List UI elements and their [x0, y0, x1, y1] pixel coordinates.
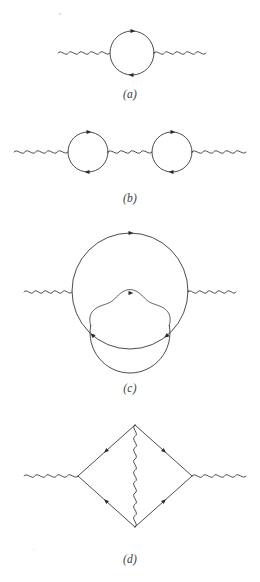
vertex-dot-top [131, 30, 134, 33]
photon-line-out [192, 475, 246, 477]
fermion-loop-outer [72, 233, 188, 349]
panel-label-a: (a) [100, 88, 160, 100]
vertex-dot-left-top [87, 131, 90, 134]
panel-label-d: (d) [100, 553, 160, 565]
vertex-dot-left-bottom [87, 171, 90, 174]
panel-d-diagram [24, 425, 246, 527]
fermion-loop-right [152, 132, 192, 172]
feynman-figure: (a) (b) (c) (d) [0, 0, 260, 582]
photon-line-out [188, 291, 236, 293]
vertex-dot-outer-top [129, 232, 132, 235]
photon-line-in [24, 291, 72, 293]
vertex-dot-right-bottom [171, 171, 174, 174]
photon-line-in [14, 151, 68, 153]
photon-line-mid [108, 151, 152, 153]
photon-line-in [24, 475, 78, 477]
panel-b-diagram [14, 130, 246, 174]
photon-line-internal [134, 425, 137, 527]
panel-a-diagram [58, 29, 206, 77]
photon-line-out [154, 52, 206, 54]
fermion-loop [110, 31, 154, 75]
paper-speck [59, 13, 61, 15]
fermion-loop-left [68, 132, 108, 172]
photon-arc-inner [90, 290, 170, 326]
vertex-dot-right-top [171, 131, 174, 134]
panel-c-diagram [24, 231, 236, 373]
panel-label-b: (b) [100, 192, 160, 204]
photon-line-out [192, 151, 246, 153]
vertex-dot-photon-left [92, 334, 95, 337]
vertex-dot-inner-top [129, 292, 132, 295]
panel-label-c: (c) [100, 382, 160, 394]
vertex-dot-bottom [131, 74, 134, 77]
vertex-dot-photon-right [166, 334, 169, 337]
photon-line-in [58, 52, 110, 54]
